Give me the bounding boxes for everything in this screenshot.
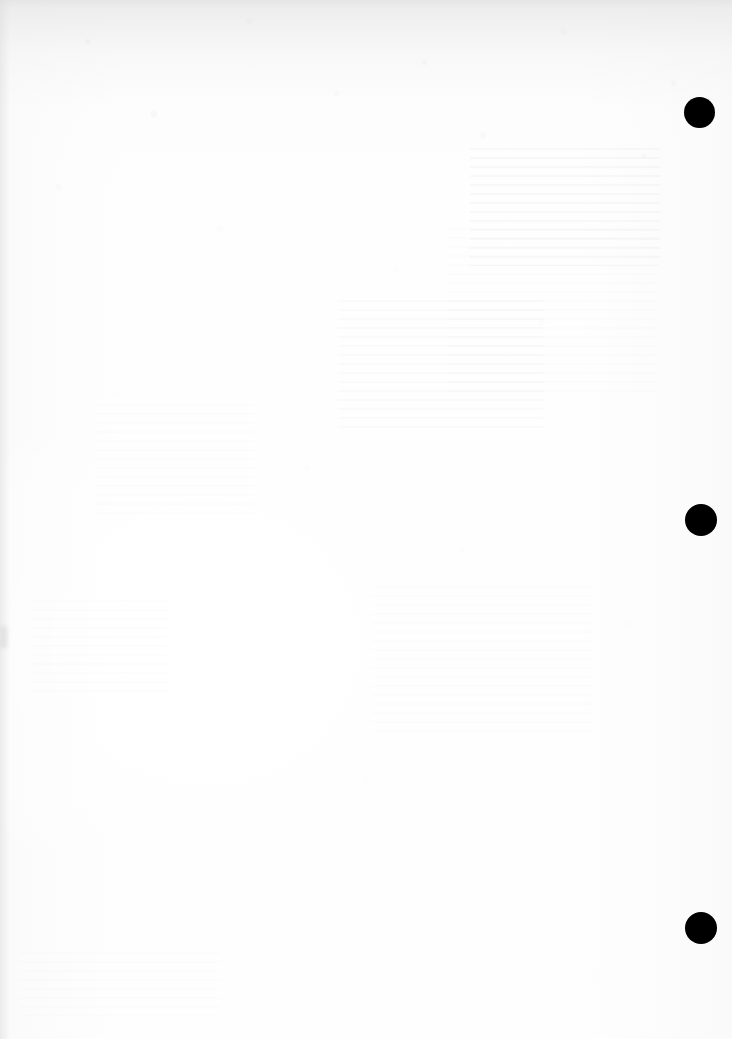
top-edge-shadow bbox=[0, 0, 732, 8]
punch-hole-middle bbox=[685, 504, 717, 536]
punch-hole-bottom bbox=[685, 912, 717, 944]
left-edge-shadow bbox=[0, 0, 10, 1039]
scanned-page bbox=[0, 0, 732, 1039]
paper-grain-texture bbox=[0, 0, 732, 1039]
punch-hole-top bbox=[684, 97, 715, 128]
left-edge-smudge bbox=[0, 626, 7, 648]
